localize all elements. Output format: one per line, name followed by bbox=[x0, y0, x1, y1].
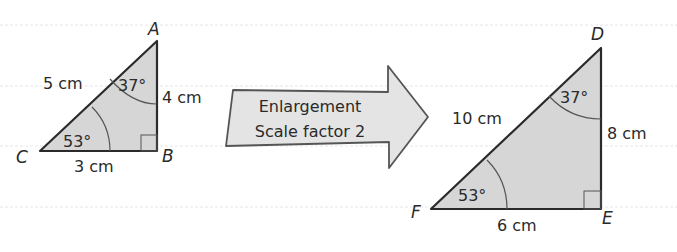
side-fd-label: 10 cm bbox=[452, 109, 502, 128]
vertex-a-label: A bbox=[147, 19, 160, 39]
small-triangle: A B C 5 cm 4 cm 3 cm 37° 53° bbox=[16, 19, 202, 176]
arrow-line2: Scale factor 2 bbox=[255, 122, 365, 141]
side-ab-label: 4 cm bbox=[162, 88, 202, 107]
angle-f-label: 53° bbox=[458, 186, 486, 205]
vertex-f-label: F bbox=[411, 202, 421, 222]
enlargement-arrow: Enlargement Scale factor 2 bbox=[226, 66, 428, 168]
side-fe-label: 6 cm bbox=[497, 216, 537, 235]
side-cb-label: 3 cm bbox=[74, 157, 114, 176]
vertex-d-label: D bbox=[591, 24, 604, 44]
vertex-e-label: E bbox=[602, 208, 613, 228]
diagram-canvas: A B C 5 cm 4 cm 3 cm 37° 53° Enlargement… bbox=[0, 0, 677, 252]
vertex-b-label: B bbox=[162, 146, 174, 166]
large-triangle: D E F 10 cm 8 cm 6 cm 37° 53° bbox=[411, 24, 647, 235]
arrow-line1: Enlargement bbox=[259, 97, 362, 116]
side-de-label: 8 cm bbox=[607, 124, 647, 143]
angle-d-label: 37° bbox=[560, 88, 588, 107]
side-ac-label: 5 cm bbox=[43, 74, 83, 93]
angle-a-label: 37° bbox=[118, 76, 146, 95]
enlargement-diagram: A B C 5 cm 4 cm 3 cm 37° 53° Enlargement… bbox=[0, 0, 677, 252]
vertex-c-label: C bbox=[16, 147, 28, 167]
angle-c-label: 53° bbox=[63, 132, 91, 151]
